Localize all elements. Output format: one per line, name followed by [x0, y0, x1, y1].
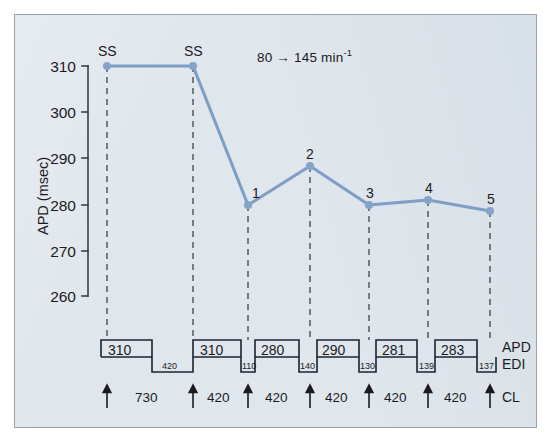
cl-value-3: 420: [265, 391, 288, 405]
figure-page: APD (msec) 310 300 290 280 270 260 80 → …: [0, 0, 553, 444]
point-label-1: 1: [252, 186, 260, 200]
ladder-apd-value-3: 280: [261, 343, 284, 357]
rate-annotation-text: 80 → 145 min: [257, 50, 343, 65]
drop-lines: [107, 66, 490, 340]
cl-value-4: 420: [325, 391, 348, 405]
y-axis: [82, 66, 88, 296]
row-label-cl: CL: [502, 390, 520, 406]
ladder-edi-value-1: 420: [162, 362, 177, 371]
data-point-ss2: [189, 62, 197, 70]
y-tick-label-300: 300: [32, 105, 76, 121]
stimulus-arrow-7: [486, 385, 494, 408]
stimulus-arrow-5: [365, 385, 373, 408]
point-label-5: 5: [487, 192, 495, 206]
point-label-3: 3: [366, 186, 374, 200]
point-label-4: 4: [425, 181, 433, 195]
y-tick-label-280: 280: [32, 198, 76, 214]
y-axis-title: APD (msec): [36, 157, 51, 235]
cl-value-1: 730: [135, 391, 158, 405]
cl-value-6: 420: [444, 391, 467, 405]
point-label-2: 2: [306, 147, 314, 161]
stimulus-arrow-1: [103, 385, 111, 408]
y-tick-label-260: 260: [32, 289, 76, 305]
ladder-edi-value-3: 140: [300, 362, 315, 371]
chart-canvas: [0, 0, 553, 444]
ladder-apd-value-5: 281: [382, 343, 405, 357]
point-label-ss2: SS: [184, 44, 203, 58]
ladder-diagram: [101, 340, 496, 372]
row-label-edi: EDI: [502, 357, 525, 373]
ladder-apd-value-1: 310: [108, 343, 131, 357]
data-point-5: [486, 207, 494, 215]
ladder-apd-value-4: 290: [322, 343, 345, 357]
stimulus-arrow-6: [424, 385, 432, 408]
stimulus-arrow-4: [306, 385, 314, 408]
ladder-edi-value-6: 137: [479, 362, 494, 371]
row-label-apd: APD: [502, 340, 531, 356]
point-label-ss1: SS: [98, 44, 117, 58]
data-point-4: [424, 196, 432, 204]
ladder-edi-value-2: 110: [242, 362, 256, 371]
y-tick-label-290: 290: [32, 151, 76, 167]
rate-annotation-exponent: -1: [343, 47, 352, 58]
y-tick-label-310: 310: [32, 59, 76, 75]
data-point-ss1: [103, 62, 111, 70]
stimulus-arrow-2: [189, 385, 197, 408]
ladder-apd-value-2: 310: [200, 343, 223, 357]
stimulus-arrows: [103, 385, 494, 408]
stimulus-arrow-3: [244, 385, 252, 408]
series-markers: [103, 62, 494, 215]
rate-annotation: 80 → 145 min-1: [257, 48, 352, 64]
data-point-2: [306, 162, 314, 170]
ladder-edi-value-4: 130: [360, 362, 375, 371]
cl-value-2: 420: [207, 391, 230, 405]
ladder-apd-value-6: 283: [441, 343, 464, 357]
y-tick-label-270: 270: [32, 244, 76, 260]
data-point-3: [365, 201, 373, 209]
data-point-1: [244, 201, 252, 209]
cl-value-5: 420: [384, 391, 407, 405]
ladder-edi-value-5: 139: [419, 362, 434, 371]
